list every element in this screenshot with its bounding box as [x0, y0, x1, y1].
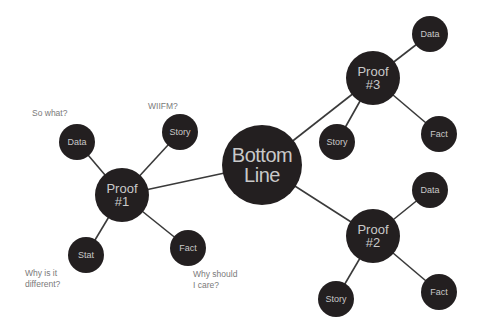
proof-2-fact-node-label: Fact [430, 288, 448, 297]
proof-1-node: Proof #1 [95, 168, 149, 222]
proof-2-node-label: Proof #2 [357, 223, 388, 249]
annotation-why-care: Why should I care? [193, 269, 237, 291]
proof-1-data-node: Data [59, 124, 95, 160]
proof-2-node: Proof #2 [346, 209, 400, 263]
proof-2-data-node-label: Data [420, 186, 439, 195]
proof-1-node-label: Proof #1 [106, 182, 137, 208]
proof-2-fact-node: Fact [421, 274, 457, 310]
proof-2-story-node: Story [318, 281, 354, 317]
bottom-line-node: Bottom Line [222, 125, 302, 205]
proof-3-story-node: Story [319, 124, 355, 160]
proof-3-story-node-label: Story [326, 138, 347, 147]
annotation-so-what: So what? [32, 108, 67, 119]
proof-1-story-node-label: Story [169, 128, 190, 137]
bottom-line-node-label: Bottom Line [232, 145, 292, 185]
proof-1-fact-node: Fact [170, 230, 206, 266]
proof-1-data-node-label: Data [67, 138, 86, 147]
proof-3-data-node-label: Data [420, 30, 439, 39]
proof-3-fact-node: Fact [421, 116, 457, 152]
proof-1-stat-node-label: Stat [78, 251, 94, 260]
proof-2-data-node: Data [412, 172, 448, 208]
proof-1-fact-node-label: Fact [179, 244, 197, 253]
proof-1-stat-node: Stat [68, 237, 104, 273]
annotation-wiifm: WIIFM? [148, 101, 178, 112]
proof-3-data-node: Data [412, 16, 448, 52]
proof-2-story-node-label: Story [325, 295, 346, 304]
proof-3-node: Proof #3 [346, 51, 400, 105]
proof-1-story-node: Story [162, 114, 198, 150]
annotation-why-different: Why is it different? [25, 268, 60, 290]
proof-3-node-label: Proof #3 [357, 65, 388, 91]
proof-3-fact-node-label: Fact [430, 130, 448, 139]
